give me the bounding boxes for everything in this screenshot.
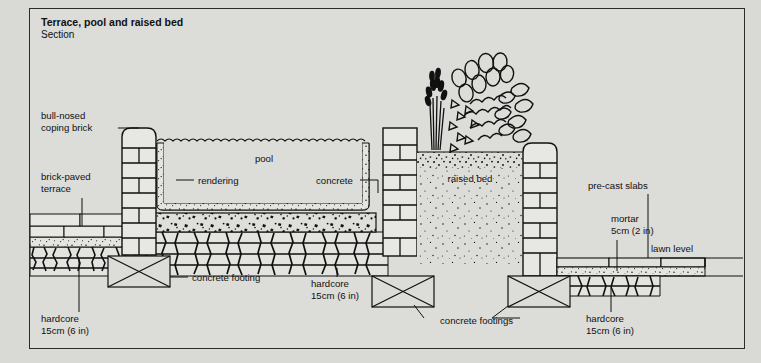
label-terrace-line1: brick-paved	[41, 171, 91, 182]
label-concrete-footings: concrete footings	[440, 315, 513, 326]
section-drawing: Terrace, pool and raised bed Section	[0, 0, 761, 363]
ornamental-grass-icon	[425, 68, 448, 150]
pool-water-body	[164, 143, 362, 203]
label-raised-bed: raised bed	[448, 173, 493, 184]
label-hardcore-right-line2: 15cm (6 in)	[586, 325, 634, 336]
label-precast-slabs: pre-cast slabs	[588, 180, 648, 191]
diagram-page: Terrace, pool and raised bed Section	[0, 0, 761, 363]
hardcore-right	[557, 276, 660, 296]
pool-concrete-slab	[150, 213, 376, 232]
label-mortar-line2: 5cm (2 in)	[611, 225, 654, 236]
label-hardcore-left-line1: hardcore	[41, 313, 79, 324]
raised-bed-soil-top	[417, 152, 523, 168]
shrub-icon	[449, 52, 533, 152]
hardcore-pool	[136, 232, 388, 276]
page-subtitle: Section	[41, 29, 74, 40]
label-coping-line2: coping brick	[41, 122, 92, 133]
label-coping-line1: bull-nosed	[41, 110, 85, 121]
pool-wall-left	[122, 128, 156, 255]
pool-wall-right-pier	[383, 128, 417, 256]
raised-bed-wall-right	[523, 143, 557, 276]
slab-mortar-bed	[557, 267, 705, 276]
label-concrete: concrete	[316, 175, 353, 186]
label-pool: pool	[255, 153, 273, 164]
brick-paved-terrace-surface	[30, 214, 136, 237]
concrete-footing-box-icon	[108, 256, 170, 287]
label-hardcore-mid-line2: 15cm (6 in)	[311, 290, 359, 301]
concrete-footing-box-icon	[508, 276, 570, 307]
label-hardcore-right-line1: hardcore	[586, 313, 624, 324]
label-terrace-line2: terrace	[41, 183, 71, 194]
label-lawn-level: lawn level	[651, 243, 693, 254]
label-concrete-footing: concrete footing	[192, 272, 260, 283]
label-rendering: rendering	[198, 175, 239, 186]
label-hardcore-mid-line1: hardcore	[311, 278, 349, 289]
label-hardcore-left-line2: 15cm (6 in)	[41, 325, 89, 336]
pre-cast-slabs-surface	[557, 258, 705, 267]
terrace-mortar-bed	[30, 237, 136, 247]
concrete-footing-box-icon	[372, 276, 434, 307]
raised-bed-soil	[417, 152, 523, 264]
label-mortar-line1: mortar	[611, 213, 640, 224]
water-surface-icon	[157, 139, 365, 141]
page-title: Terrace, pool and raised bed	[41, 16, 183, 28]
